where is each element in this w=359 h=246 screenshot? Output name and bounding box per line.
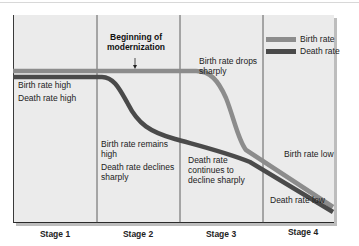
legend-death-label: Death rate [300,46,340,56]
arrow-down-icon [133,65,137,69]
stage-label-4: Stage 4 [263,227,343,237]
birth-swatch-icon [266,37,296,42]
label-s4-birth: Birth rate low [284,149,334,160]
label-s1-birth: Birth rate high [18,80,71,91]
label-s3-death-3: decline sharply [188,175,245,186]
label-s2-death-2: sharply [101,172,128,183]
legend-item-birth: Birth rate [266,34,335,44]
death-swatch-icon [266,49,296,54]
annotation-line-1: Beginning of [100,32,172,42]
annotation-modernization: Beginning of modernization [100,32,172,52]
stage-label-1: Stage 1 [15,229,95,239]
legend-item-death: Death rate [266,46,340,56]
label-s3-birth-2: sharply [199,66,226,77]
stage-label-3: Stage 3 [181,229,261,239]
label-s1-death: Death rate high [18,93,76,104]
stage-label-2: Stage 2 [98,229,178,239]
label-s2-birth-2: high [101,149,117,160]
annotation-line-2: modernization [100,42,172,52]
label-s4-death: Death rate low [270,195,325,206]
legend-birth-label: Birth rate [300,34,335,44]
